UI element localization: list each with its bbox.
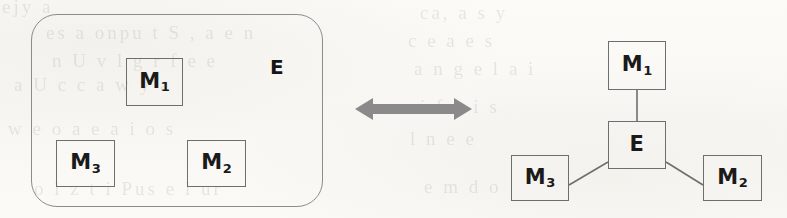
right-node-e[interactable]: E — [608, 121, 666, 169]
edge-e-m3 — [569, 162, 608, 185]
left-node-m2[interactable]: M2 — [187, 140, 246, 187]
left-node-m2-label: M2 — [201, 152, 231, 175]
edge-e-m2 — [666, 162, 703, 185]
right-node-m2-label: M2 — [717, 167, 747, 190]
left-node-m1[interactable]: M1 — [126, 58, 183, 106]
right-node-m3-label: M3 — [525, 167, 555, 190]
left-node-m3[interactable]: M3 — [56, 140, 115, 187]
diagram-canvas: ejy a es a onpu t S , a e n n U v l g r … — [0, 0, 787, 218]
equivalence-arrow-icon — [355, 98, 472, 120]
right-node-m3[interactable]: M3 — [511, 155, 569, 201]
right-node-m1[interactable]: M1 — [608, 41, 666, 90]
left-node-m3-label: M3 — [70, 152, 100, 175]
containment-group-label: E — [270, 57, 284, 77]
left-node-m1-label: M1 — [139, 71, 169, 94]
right-node-m2[interactable]: M2 — [703, 155, 762, 201]
right-node-e-label: E — [630, 134, 645, 157]
right-node-m1-label: M1 — [622, 54, 652, 77]
